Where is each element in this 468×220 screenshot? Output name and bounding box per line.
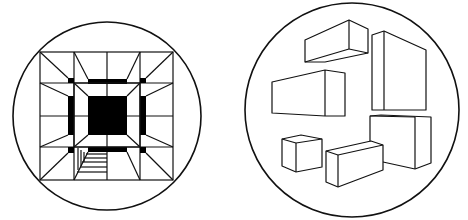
room-perspective-drawing <box>0 0 234 220</box>
boxes-perspective-drawing <box>234 0 468 220</box>
figure-one-point-perspective: Room interior in one-point perspective w… <box>0 0 234 220</box>
figure-two-point-perspective: Six rectangular boxes drawn in two-point… <box>234 0 468 220</box>
vanishing-square <box>88 96 127 135</box>
box-small-cube <box>282 135 322 172</box>
